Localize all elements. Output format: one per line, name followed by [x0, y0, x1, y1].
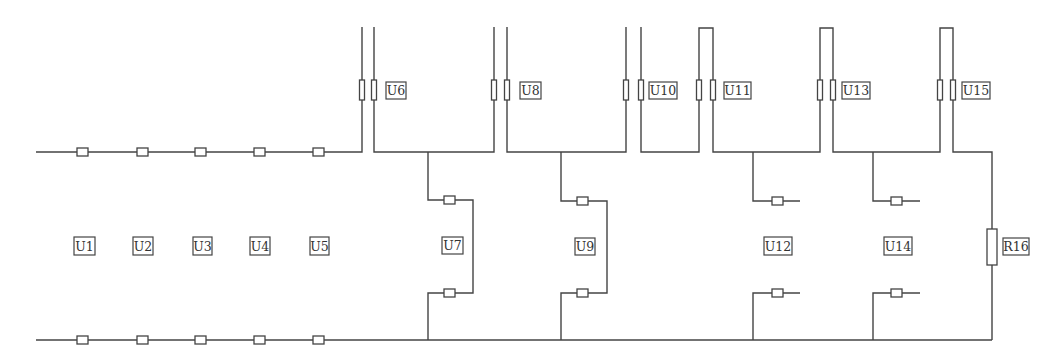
svg-text:U15: U15 [963, 83, 989, 98]
resistor-u15-b [951, 80, 956, 100]
resistor-u8-a [492, 80, 497, 100]
label-u2: U2 [133, 237, 153, 255]
resistor-u15-a [938, 80, 943, 100]
svg-text:U5: U5 [310, 239, 329, 254]
component-u12-upper [772, 197, 783, 205]
circuit-diagram: U1 U2 U3 U4 U5 U6 U7 U8 U9 U10 U11 [0, 0, 1063, 364]
svg-text:U12: U12 [765, 239, 791, 254]
label-u13: U13 [842, 82, 870, 99]
component-u2-top [137, 148, 148, 156]
component-u7-upper [444, 196, 455, 204]
component-u12-lower [772, 289, 783, 297]
resistor-u13-b [831, 80, 836, 100]
component-u5-top [313, 148, 324, 156]
svg-text:U3: U3 [193, 239, 212, 254]
component-u14-upper [891, 197, 902, 205]
resistor-u10-b [639, 80, 644, 100]
label-u1: U1 [74, 237, 95, 255]
svg-text:U2: U2 [134, 239, 153, 254]
label-u7: U7 [442, 237, 463, 254]
resistor-u6-b [372, 80, 377, 100]
resistor-u8-b [505, 80, 510, 100]
component-u2-bottom [137, 336, 148, 344]
label-u3: U3 [193, 237, 212, 255]
label-u5: U5 [310, 237, 329, 255]
svg-text:U10: U10 [650, 83, 676, 98]
component-u7-lower [444, 289, 455, 297]
label-u14: U14 [884, 237, 912, 255]
label-u12: U12 [764, 237, 792, 255]
label-u10: U10 [649, 82, 677, 99]
component-u1-top [77, 148, 88, 156]
svg-text:U13: U13 [843, 83, 869, 98]
component-u5-bottom [313, 336, 324, 344]
component-u3-bottom [195, 336, 206, 344]
svg-text:R16: R16 [1003, 239, 1028, 254]
svg-text:U11: U11 [724, 83, 750, 98]
svg-text:U8: U8 [521, 83, 540, 98]
component-u9-lower [577, 289, 588, 297]
resistor-r16 [987, 229, 997, 265]
component-u4-top [254, 148, 265, 156]
label-u8: U8 [520, 82, 541, 99]
label-u6: U6 [386, 82, 406, 99]
component-u3-top [195, 148, 206, 156]
svg-text:U4: U4 [251, 239, 270, 254]
component-u9-upper [577, 197, 588, 205]
label-u9: U9 [575, 238, 595, 255]
wire-u10-to-r16 [641, 27, 992, 340]
svg-text:U14: U14 [885, 239, 911, 254]
component-u4-bottom [254, 336, 265, 344]
top-bus-left [36, 27, 362, 152]
resistor-u11-b [711, 80, 716, 100]
label-u15: U15 [962, 82, 990, 99]
component-u14-lower [891, 289, 902, 297]
svg-text:U1: U1 [75, 239, 94, 254]
svg-text:U7: U7 [443, 238, 462, 253]
resistor-u10-a [624, 80, 629, 100]
resistor-u11-a [697, 80, 702, 100]
label-u11: U11 [724, 82, 751, 99]
label-u4: U4 [250, 237, 270, 255]
resistor-u6-a [360, 80, 365, 100]
label-r16: R16 [1003, 238, 1029, 255]
svg-text:U9: U9 [576, 239, 595, 254]
component-u1-bottom [77, 336, 88, 344]
svg-text:U6: U6 [387, 83, 406, 98]
resistor-u13-a [818, 80, 823, 100]
